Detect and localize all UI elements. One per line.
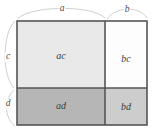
figure-canvas: ac bc ad bd a b c d xyxy=(0,0,160,135)
dimension-label-c: c xyxy=(5,52,11,62)
region-bc-rect xyxy=(105,21,147,88)
area-model-diagram xyxy=(0,0,160,135)
dimension-label-a: a xyxy=(59,4,66,14)
region-bd-rect xyxy=(105,88,147,125)
dimension-label-d: d xyxy=(5,99,12,109)
region-ad-rect xyxy=(17,88,105,125)
dimension-label-b: b xyxy=(124,5,131,15)
region-ac-rect xyxy=(17,21,105,88)
